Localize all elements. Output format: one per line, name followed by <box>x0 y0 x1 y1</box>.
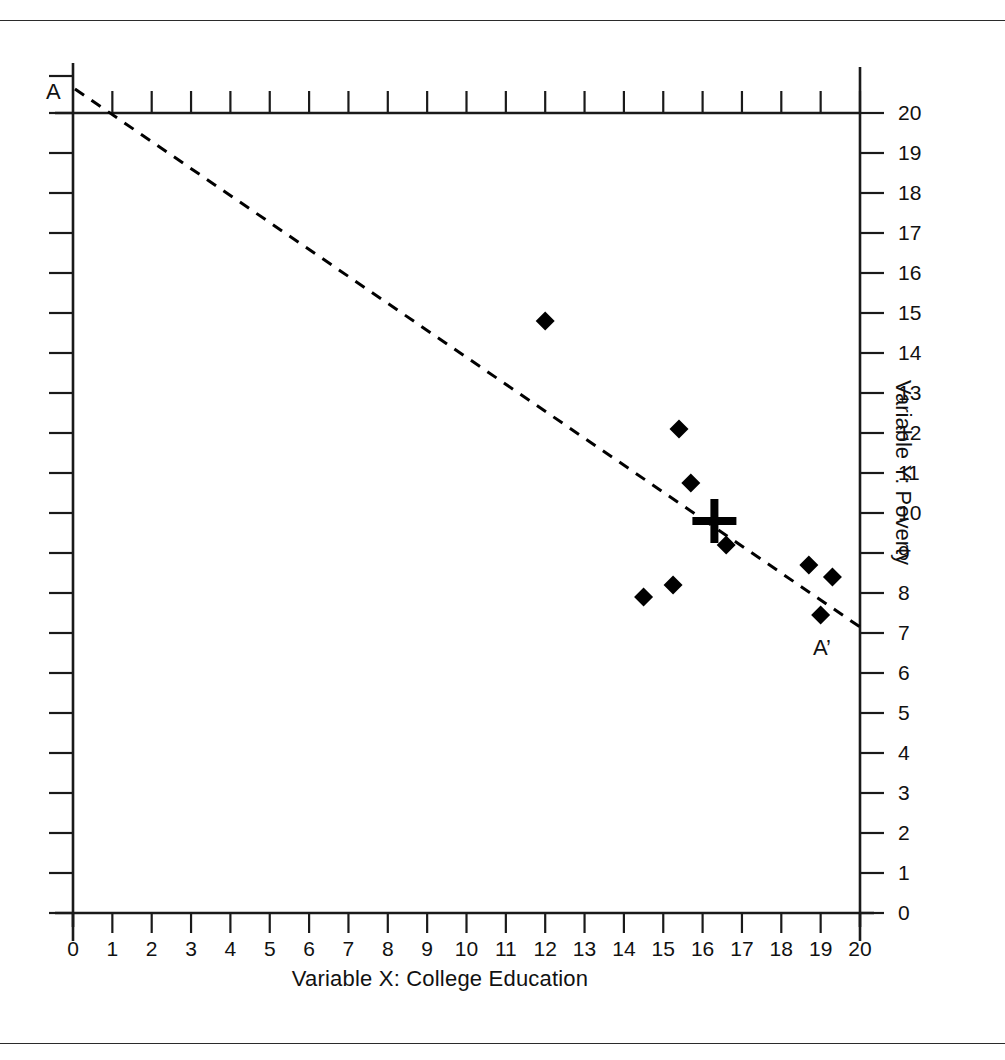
y-axis-tick-label: 12 <box>898 422 921 443</box>
y-axis-tick-label: 17 <box>898 222 921 243</box>
data-point-marker <box>536 312 555 331</box>
x-axis-tick-label: 13 <box>565 938 605 959</box>
data-point-marker <box>681 474 700 493</box>
x-axis-tick-label: 4 <box>210 938 250 959</box>
y-axis-tick-label: 6 <box>898 662 910 683</box>
x-axis-tick-label: 0 <box>53 938 93 959</box>
x-axis-tick-label: 2 <box>132 938 172 959</box>
data-point-marker <box>717 536 736 555</box>
x-axis-tick-label: 9 <box>407 938 447 959</box>
y-axis-tick-label: 5 <box>898 702 910 723</box>
x-axis-tick-label: 19 <box>801 938 841 959</box>
trend-line <box>75 89 860 627</box>
x-axis-tick-label: 10 <box>447 938 487 959</box>
x-axis-tick-label: 8 <box>368 938 408 959</box>
y-axis-tick-label: 2 <box>898 822 910 843</box>
y-axis-tick-label: 19 <box>898 142 921 163</box>
y-axis-tick-label: 13 <box>898 382 921 403</box>
y-axis-tick-label: 9 <box>898 542 910 563</box>
centroid-cross-icon <box>710 499 718 543</box>
x-axis-tick-label: 15 <box>643 938 683 959</box>
scatter-plot-figure: A A’ Variable X: College Education Varia… <box>0 0 1005 1060</box>
x-axis-tick-label: 6 <box>289 938 329 959</box>
x-axis-tick-label: 20 <box>840 938 880 959</box>
y-axis-tick-label: 15 <box>898 302 921 323</box>
x-axis-tick-label: 11 <box>486 938 526 959</box>
y-axis-tick-label: 4 <box>898 742 910 763</box>
y-axis-tick-label: 0 <box>898 902 910 923</box>
y-axis-tick-label: 18 <box>898 182 921 203</box>
y-axis-tick-label: 7 <box>898 622 910 643</box>
y-axis-tick-label: 8 <box>898 582 910 603</box>
y-axis-tick-label: 16 <box>898 262 921 283</box>
x-axis-tick-label: 16 <box>683 938 723 959</box>
x-axis-tick-label: 12 <box>525 938 565 959</box>
y-axis-tick-label: 20 <box>898 102 921 123</box>
y-axis-tick-label: 14 <box>898 342 921 363</box>
data-point-marker <box>823 568 842 587</box>
x-axis-tick-label: 14 <box>604 938 644 959</box>
data-point-marker <box>799 556 818 575</box>
trend-line-end-label: A’ <box>813 637 831 659</box>
x-axis-tick-label: 17 <box>722 938 762 959</box>
y-axis-tick-label: 10 <box>898 502 921 523</box>
y-axis-tick-label: 1 <box>898 862 910 883</box>
y-axis-tick-label: 3 <box>898 782 910 803</box>
x-axis-tick-label: 5 <box>250 938 290 959</box>
x-axis-tick-label: 1 <box>92 938 132 959</box>
data-point-marker <box>664 576 683 595</box>
data-point-marker <box>811 606 830 625</box>
plot-canvas <box>0 0 1005 1060</box>
y-axis-tick-label: 11 <box>898 462 920 483</box>
data-point-marker <box>634 588 653 607</box>
x-axis-tick-label: 7 <box>328 938 368 959</box>
data-point-marker <box>669 420 688 439</box>
x-axis-tick-label: 3 <box>171 938 211 959</box>
x-axis-tick-label: 18 <box>761 938 801 959</box>
x-axis-title: Variable X: College Education <box>0 966 880 992</box>
trend-line-start-label: A <box>46 81 61 103</box>
